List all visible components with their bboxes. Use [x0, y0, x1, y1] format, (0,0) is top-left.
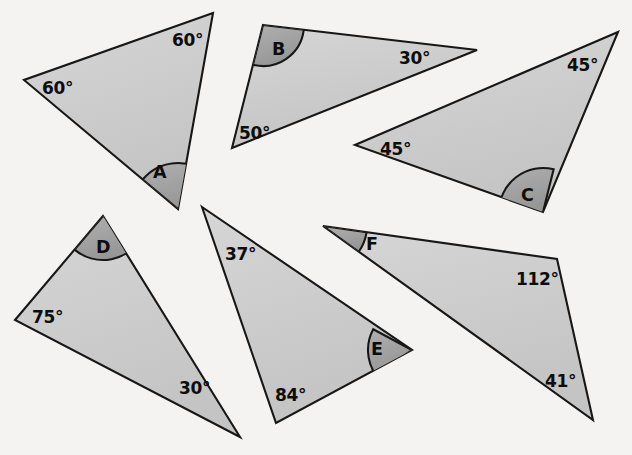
angle-value-b-1: 30°	[399, 48, 430, 68]
angle-arc-f	[323, 226, 367, 252]
triangle-a[interactable]: A60°60°	[24, 13, 213, 209]
angle-value-b-2: 50°	[239, 123, 270, 143]
angle-value-d-1: 75°	[32, 307, 63, 327]
angle-value-a-2: 60°	[42, 78, 73, 98]
angle-value-f-2: 41°	[545, 371, 576, 391]
triangle-label-a: A	[153, 162, 167, 182]
triangle-label-e: E	[371, 339, 383, 359]
triangle-label-d: D	[96, 237, 111, 257]
angle-value-a-1: 60°	[172, 30, 203, 50]
angle-value-e-2: 84°	[275, 385, 306, 405]
worksheet-canvas: A60°60°B30°50°C45°45°D75°30°E37°84°F112°…	[0, 0, 632, 455]
angle-value-f-1: 112°	[516, 269, 559, 289]
angle-value-c-1: 45°	[567, 55, 598, 75]
angle-value-e-1: 37°	[225, 244, 256, 264]
triangles-diagram: A60°60°B30°50°C45°45°D75°30°E37°84°F112°…	[0, 0, 632, 455]
triangle-label-b: B	[272, 39, 285, 59]
angle-value-d-2: 30°	[179, 378, 210, 398]
triangle-label-c: C	[521, 185, 534, 205]
angle-value-c-2: 45°	[380, 139, 411, 159]
triangle-d[interactable]: D75°30°	[15, 216, 240, 437]
triangle-label-f: F	[366, 234, 378, 254]
